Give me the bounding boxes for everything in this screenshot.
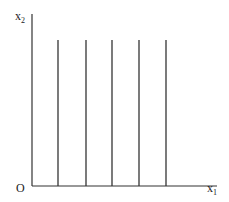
y-axis-label: x2 (15, 10, 25, 25)
vertical-lines (58, 40, 166, 186)
diagram-canvas (0, 0, 229, 202)
origin-label: O (16, 182, 25, 194)
x-axis-label: x1 (207, 182, 217, 197)
